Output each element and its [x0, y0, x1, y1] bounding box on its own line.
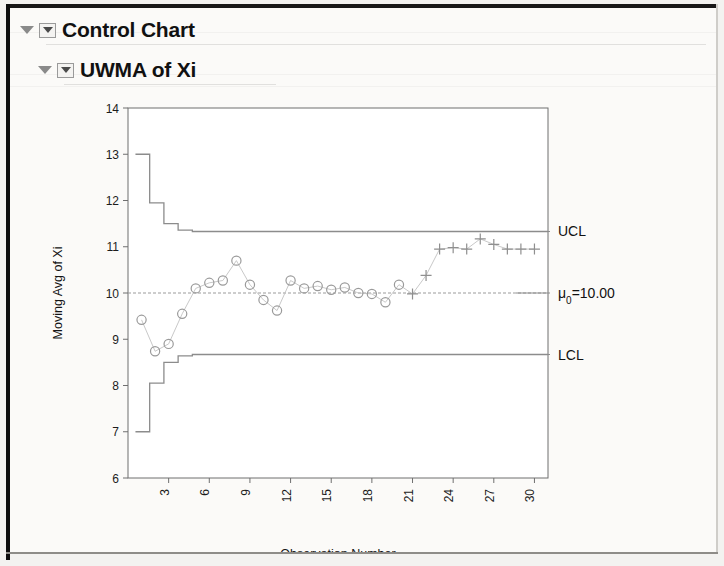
x-tick-label: 18 — [361, 489, 375, 503]
y-tick-label: 9 — [112, 333, 119, 347]
y-axis-title: Moving Avg of Xi — [51, 247, 65, 340]
outline-row-uwma[interactable]: UWMA of Xi — [38, 58, 196, 82]
x-tick-label: 9 — [239, 489, 253, 496]
lcl-label: LCL — [558, 347, 584, 363]
x-tick-label: 30 — [523, 489, 537, 503]
y-tick-label: 8 — [112, 379, 119, 393]
report-sheet: Control Chart UWMA of Xi 678910111213143… — [10, 8, 716, 552]
x-tick-label: 27 — [483, 489, 497, 503]
y-tick-label: 6 — [112, 472, 119, 486]
outline-row-control-chart[interactable]: Control Chart — [20, 18, 195, 42]
uwma-control-chart: 6789101112131436912151821242730Observati… — [20, 92, 720, 552]
window-frame-bottom — [6, 552, 718, 554]
y-tick-label: 7 — [112, 425, 119, 439]
header-rule-2 — [64, 84, 276, 85]
x-tick-label: 3 — [158, 489, 172, 496]
y-tick-label: 12 — [106, 194, 120, 208]
x-tick-label: 24 — [442, 489, 456, 503]
x-tick-label: 21 — [402, 489, 416, 503]
outline-label-uwma: UWMA of Xi — [80, 58, 196, 82]
y-tick-label: 13 — [106, 148, 120, 162]
x-axis-title: Observation Number — [280, 547, 395, 552]
screenshot-root: Control Chart UWMA of Xi 678910111213143… — [0, 0, 724, 566]
disclosure-triangle-icon[interactable] — [38, 66, 52, 74]
x-tick-label: 15 — [320, 489, 334, 503]
chevron-down-icon[interactable] — [39, 23, 56, 38]
x-tick-label: 6 — [198, 489, 212, 496]
header-rule-1 — [46, 44, 706, 45]
y-tick-label: 14 — [106, 102, 120, 116]
ucl-label: UCL — [558, 223, 586, 239]
chevron-down-icon[interactable] — [57, 63, 74, 78]
outline-label-control-chart: Control Chart — [62, 18, 195, 42]
y-tick-label: 10 — [106, 287, 120, 301]
y-tick-label: 11 — [107, 240, 120, 254]
center-line-label: μ0=10.00 — [558, 285, 615, 306]
chart-canvas: 6789101112131436912151821242730Observati… — [20, 92, 720, 552]
x-tick-label: 12 — [280, 489, 294, 503]
disclosure-triangle-icon[interactable] — [20, 26, 34, 34]
